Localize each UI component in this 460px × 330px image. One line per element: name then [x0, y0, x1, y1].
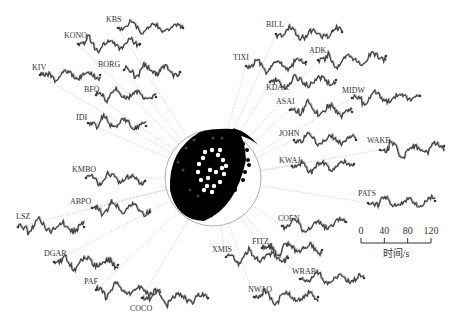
station-marker	[85, 177, 88, 180]
dilatation-dot	[210, 148, 214, 152]
dilatation-dot	[208, 168, 212, 172]
waveform-end-marker	[353, 163, 356, 166]
station-marker	[317, 59, 320, 62]
compression-dot	[245, 148, 249, 152]
station-label: ABPO	[70, 197, 92, 206]
waveform-end-marker	[287, 257, 290, 260]
station-label: KONO	[64, 31, 87, 40]
station-label: PATS	[358, 189, 376, 198]
dilatation-dot	[206, 176, 210, 180]
station-marker	[141, 297, 144, 300]
station-label: DGAR	[44, 249, 67, 258]
station-marker	[39, 74, 42, 77]
station-label: LSZ	[16, 212, 30, 221]
dilatation-dot	[202, 188, 206, 192]
nodal-dot	[177, 161, 180, 164]
station-label: COEN	[278, 214, 300, 223]
station-label: ADK	[309, 46, 327, 55]
station-marker	[367, 202, 370, 205]
station-label: BORG	[98, 60, 120, 69]
observed-waveform	[124, 62, 180, 78]
station-marker	[53, 261, 56, 264]
station-marker	[17, 226, 20, 229]
observed-waveform	[246, 58, 306, 74]
nodal-dot	[185, 147, 188, 150]
station-marker	[245, 65, 248, 68]
waveform-end-marker	[335, 79, 338, 82]
observed-waveform	[318, 52, 386, 69]
station-label: TIXI	[233, 53, 249, 62]
time-scale-bar: 04080120时间/s	[359, 225, 439, 259]
focal-mechanism-figure: KBSKONOKIVBORGBFOIDIBILLTIXIADKKDAKMIDWA…	[0, 0, 460, 330]
waveform-end-marker	[117, 264, 120, 267]
dilatation-dot	[224, 164, 228, 168]
station-label: KBS	[106, 15, 122, 24]
dilatation-dot	[220, 166, 224, 170]
dilatation-dot	[218, 180, 222, 184]
compression-dot	[241, 142, 245, 146]
synthetic-waveform	[96, 281, 161, 298]
observed-waveform	[40, 70, 100, 82]
nodal-dot	[197, 195, 200, 198]
nodal-dot	[221, 137, 224, 140]
beachball	[165, 128, 261, 226]
waveform-end-marker	[207, 297, 210, 300]
station-label: JOHN	[279, 129, 300, 138]
waveform-end-marker	[182, 27, 185, 30]
observed-waveform	[96, 87, 156, 102]
scale-tick-label: 120	[424, 225, 439, 236]
waveform-end-marker	[317, 296, 320, 299]
dilatation-dot	[199, 178, 203, 182]
waveform-end-marker	[419, 95, 422, 98]
waveform-end-marker	[434, 200, 437, 203]
station-label: BFO	[84, 85, 100, 94]
waveform-end-marker	[321, 249, 324, 252]
observed-waveform	[88, 115, 146, 130]
waveform-end-marker	[99, 74, 102, 77]
station-label: WRAB	[292, 267, 316, 276]
scale-axis-label: 时间/s	[383, 247, 410, 259]
dilatation-dot	[203, 150, 207, 154]
station-label: XMIS	[212, 245, 232, 254]
nodal-dot	[182, 169, 185, 172]
waveform-end-marker	[355, 139, 358, 142]
waveform-end-marker	[305, 61, 308, 64]
dilatation-dot	[196, 170, 200, 174]
dilatation-dot	[210, 190, 214, 194]
dilatation-dot	[222, 172, 226, 176]
station-label: IDI	[76, 113, 87, 122]
station-label: BILL	[266, 20, 284, 29]
waveform-end-marker	[385, 55, 388, 58]
compression-dot	[247, 163, 251, 167]
dilatation-dot	[214, 170, 218, 174]
station-marker	[117, 27, 120, 30]
scale-tick-label: 80	[403, 225, 413, 236]
station-marker	[77, 43, 80, 46]
station-marker	[123, 69, 126, 72]
station-marker	[261, 247, 264, 250]
station-label: NWAO	[248, 285, 272, 294]
compression-dot	[243, 170, 247, 174]
station-marker	[95, 289, 98, 292]
station-label: MIDW	[342, 86, 366, 95]
station-marker	[379, 149, 382, 152]
station-marker	[351, 97, 354, 100]
observed-waveform	[368, 196, 435, 208]
station-label: KIV	[32, 63, 46, 72]
scale-tick-label: 40	[379, 225, 389, 236]
station-label: ASAI	[276, 97, 295, 106]
observed-waveform	[292, 160, 354, 175]
station-marker	[275, 33, 278, 36]
dilatation-dot	[221, 158, 225, 162]
waveform-end-marker	[351, 111, 354, 114]
waveform-end-marker	[83, 226, 86, 229]
nodal-dot	[189, 189, 192, 192]
waveform-end-marker	[341, 31, 344, 34]
observed-waveform	[294, 133, 356, 147]
station-marker	[95, 94, 98, 97]
dilatation-dot	[205, 184, 209, 188]
compression-dot	[241, 178, 245, 182]
scale-tick-label: 0	[359, 225, 364, 236]
dilatation-dot	[197, 162, 201, 166]
compression-dot	[246, 158, 250, 162]
